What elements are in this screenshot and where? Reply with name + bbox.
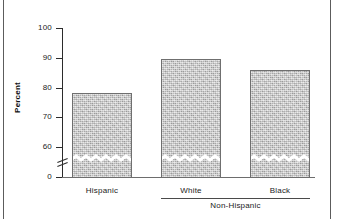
bar-black — [250, 70, 310, 177]
plot-area: Percent 100 90 80 70 60 0 — [0, 0, 341, 219]
chart-figure: Percent 100 90 80 70 60 0 — [0, 0, 341, 219]
y-tick-label-60: 60 — [12, 143, 52, 151]
y-tick-label-0: 0 — [12, 173, 52, 181]
y-tick-label-80: 80 — [12, 84, 52, 92]
x-tick-label-white: White — [146, 186, 236, 195]
y-axis-line — [62, 28, 63, 177]
y-tick-label-100: 100 — [12, 24, 52, 32]
x-tick-label-hispanic: Hispanic — [57, 186, 147, 195]
y-tick-mark-60 — [56, 147, 62, 148]
x-axis-line — [62, 177, 315, 178]
group-bracket-rule — [161, 198, 310, 199]
group-bracket-label: Non-Hispanic — [161, 201, 310, 210]
y-tick-mark-80 — [56, 88, 62, 89]
y-tick-label-90: 90 — [12, 54, 52, 62]
bar-break-zigzag-icon — [161, 154, 221, 163]
y-tick-label-70: 70 — [12, 113, 52, 121]
bar-break-zigzag-icon — [72, 154, 132, 163]
bar-white — [161, 59, 221, 177]
y-tick-mark-100 — [56, 28, 62, 29]
bar-hispanic — [72, 93, 132, 177]
bar-break-zigzag-icon — [250, 154, 310, 163]
x-tick-label-black: Black — [235, 186, 325, 195]
y-tick-mark-70 — [56, 117, 62, 118]
axis-break-icon — [57, 156, 68, 169]
y-tick-mark-90 — [56, 58, 62, 59]
